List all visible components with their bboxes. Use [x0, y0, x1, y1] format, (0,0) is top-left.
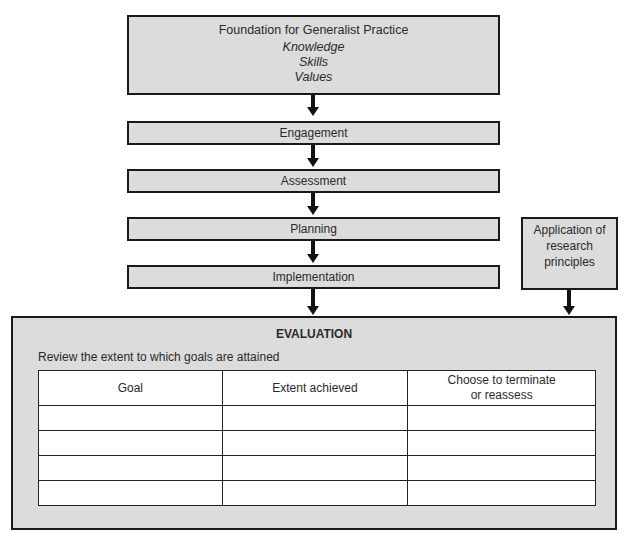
header-terminate-line-2: or reassess	[408, 388, 595, 403]
table-cell	[408, 481, 596, 506]
table-row	[39, 456, 596, 481]
research-principles-box: Application of research principles	[521, 217, 618, 290]
research-line-2: research	[523, 238, 616, 254]
foundation-item-knowledge: Knowledge	[129, 40, 498, 55]
table-cell	[408, 406, 596, 431]
table-cell	[222, 431, 408, 456]
step-assessment: Assessment	[127, 169, 500, 193]
table-cell	[222, 481, 408, 506]
step-assessment-label: Assessment	[281, 174, 346, 188]
foundation-item-skills: Skills	[129, 55, 498, 70]
step-engagement-label: Engagement	[279, 126, 347, 140]
header-terminate-reassess: Choose to terminate or reassess	[408, 371, 596, 406]
research-line-3: principles	[523, 254, 616, 270]
table-cell	[222, 406, 408, 431]
step-planning-label: Planning	[290, 222, 337, 236]
header-terminate-line-1: Choose to terminate	[408, 373, 595, 388]
evaluation-box: EVALUATION Review the extent to which go…	[11, 316, 617, 530]
table-cell	[408, 431, 596, 456]
table-header-row: Goal Extent achieved Choose to terminate…	[39, 371, 596, 406]
research-line-1: Application of	[523, 222, 616, 238]
foundation-title: Foundation for Generalist Practice	[129, 23, 498, 37]
foundation-item-values: Values	[129, 70, 498, 85]
evaluation-table: Goal Extent achieved Choose to terminate…	[38, 370, 596, 506]
step-engagement: Engagement	[127, 121, 500, 145]
header-extent-achieved: Extent achieved	[222, 371, 408, 406]
table-cell	[39, 481, 223, 506]
table-cell	[39, 456, 223, 481]
table-cell	[39, 406, 223, 431]
table-row	[39, 406, 596, 431]
table-cell	[408, 456, 596, 481]
step-planning: Planning	[127, 217, 500, 241]
evaluation-subtitle: Review the extent to which goals are att…	[38, 350, 279, 364]
evaluation-title: EVALUATION	[13, 327, 615, 341]
table-row	[39, 431, 596, 456]
header-goal: Goal	[39, 371, 223, 406]
step-implementation-label: Implementation	[272, 270, 354, 284]
table-row	[39, 481, 596, 506]
step-implementation: Implementation	[127, 265, 500, 289]
foundation-box: Foundation for Generalist Practice Knowl…	[127, 15, 500, 95]
table-cell	[39, 431, 223, 456]
table-cell	[222, 456, 408, 481]
